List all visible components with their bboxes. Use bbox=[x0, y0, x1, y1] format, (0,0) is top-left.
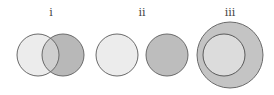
diagram-iii-contained: iii bbox=[197, 6, 263, 88]
diagram-ii-disjoint: ii bbox=[96, 6, 188, 76]
diagram-iii-label: iii bbox=[225, 6, 236, 19]
diagram-ii-label: ii bbox=[138, 6, 146, 19]
venn-diagrams-figure: i ii iii bbox=[0, 0, 274, 95]
diagram-ii-circle-b bbox=[146, 34, 188, 76]
diagram-ii-circle-a bbox=[96, 34, 138, 76]
diagram-i-overlapping: i bbox=[17, 6, 84, 76]
diagram-iii-inner-circle bbox=[203, 34, 245, 76]
diagram-i-label: i bbox=[49, 6, 53, 19]
